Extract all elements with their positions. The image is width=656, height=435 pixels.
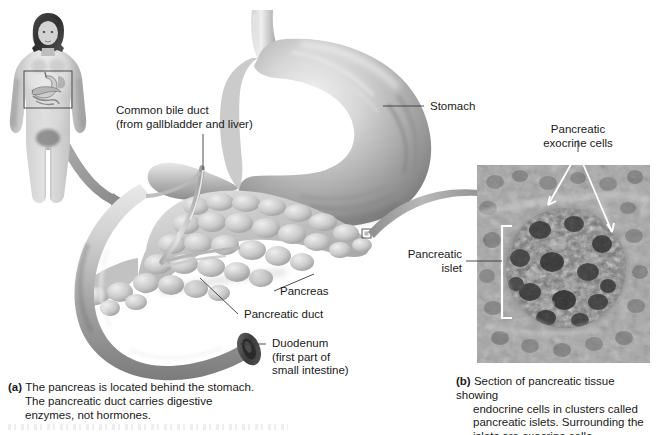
label-common-bile-duct: Common bile duct (from gallbladder and l… (116, 104, 253, 131)
organ-illustration (74, 10, 478, 380)
page-bottom-artifact (8, 424, 288, 430)
caption-a-line2: The pancreatic duct carries digestive (8, 395, 308, 409)
caption-b-line2: endocrine cells in clusters called (456, 403, 656, 417)
pancreas-figure: Common bile duct (from gallbladder and l… (0, 0, 656, 435)
caption-a-line1: The pancreas is located behind the stoma… (25, 381, 254, 393)
figure-head (32, 13, 64, 56)
caption-a-line3: enzymes, not hormones. (8, 409, 308, 423)
caption-b: (b) Section of pancreatic tissue showing… (456, 375, 656, 435)
label-stomach: Stomach (430, 100, 475, 114)
label-pancreatic-islet: Pancreatic islet (386, 248, 462, 275)
caption-b-line4: islets are exocrine cells. (456, 430, 656, 435)
pancreas-histology-micrograph (477, 152, 650, 363)
caption-a-letter: (a) (8, 381, 22, 393)
caption-b-letter: (b) (456, 375, 471, 387)
label-pancreas: Pancreas (280, 285, 329, 299)
caption-a: (a) The pancreas is located behind the s… (8, 381, 308, 422)
human-body-diagram (0, 0, 131, 215)
label-pancreatic-duct: Pancreatic duct (244, 308, 323, 322)
caption-b-line1: Section of pancreatic tissue showing (456, 375, 615, 401)
label-duodenum: Duodenum (first part of small intestine) (272, 337, 349, 378)
caption-b-line3: pancreatic islets. Surrounding the (456, 416, 656, 430)
label-pancreatic-exocrine-cells: Pancreatic exocrine cells (521, 123, 635, 150)
